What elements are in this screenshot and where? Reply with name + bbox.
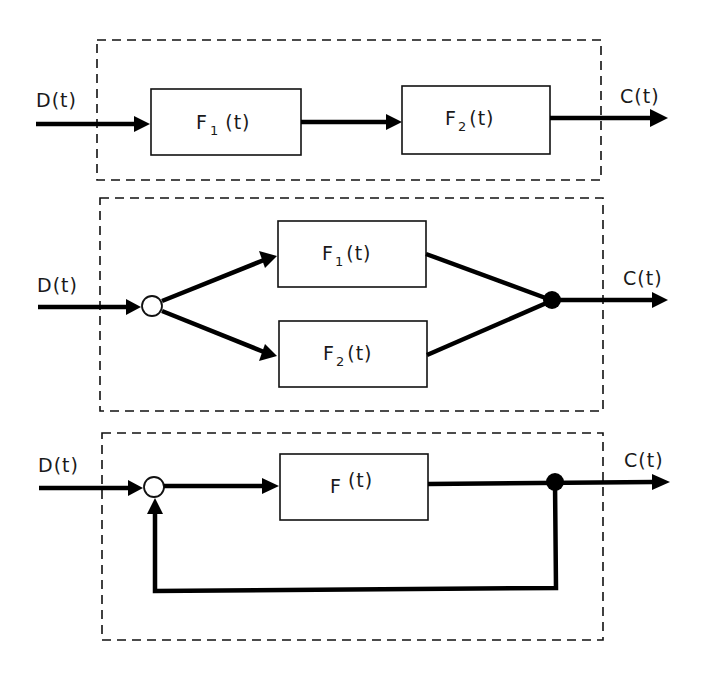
output-label: C(t) (620, 85, 660, 107)
summing-junction-icon (144, 477, 164, 497)
output-label: C(t) (623, 267, 663, 289)
arrow-head-icon (128, 480, 143, 496)
arrow-head-icon (147, 498, 163, 514)
input-label: D(t) (36, 89, 77, 111)
arrow-head-icon (652, 474, 670, 490)
input-label: D(t) (37, 274, 78, 296)
arrow-head-icon (652, 292, 668, 308)
output-label: C(t) (624, 449, 664, 471)
branch-point-icon (142, 296, 162, 316)
panel-parallel: D(t) F1(t) F2(t) C(t) (37, 198, 668, 411)
arrow-head-icon (650, 109, 668, 127)
output-wire (428, 482, 654, 484)
arrow-head-icon (134, 116, 150, 132)
branch-wire-upper (162, 260, 264, 301)
input-label: D(t) (38, 454, 79, 476)
panel-feedback: D(t) F(t) C(t) (38, 433, 670, 640)
arrow-head-icon (386, 114, 402, 130)
arrow-head-icon (126, 299, 141, 315)
block-diagram: D(t) F1(t) F2(t) C(t) D(t) F1(t) F2(t) C… (0, 0, 708, 675)
arrow-head-icon (262, 478, 279, 494)
merge-wire-lower (427, 301, 551, 355)
branch-wire-lower (162, 311, 264, 352)
panel-series: D(t) F1(t) F2(t) C(t) (36, 40, 668, 180)
merge-wire-upper (426, 254, 551, 300)
